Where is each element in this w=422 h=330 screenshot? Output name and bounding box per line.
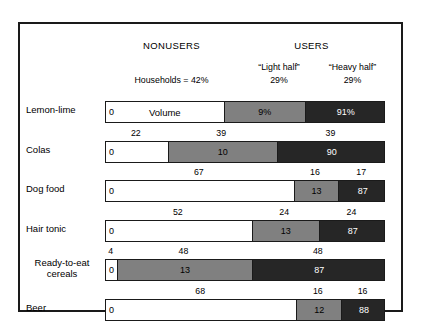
bar-segment-light: 10 <box>168 142 277 162</box>
households-percent-row: 223939 <box>105 128 385 141</box>
bar-segment-heavy: 88 <box>341 300 385 320</box>
bar-segment-nonusers: 0 <box>106 221 252 241</box>
volume-percent-value: 13 <box>180 265 190 275</box>
volume-percent-value: 0 <box>106 265 114 275</box>
stacked-bar: 01090 <box>105 141 385 163</box>
households-percent-row: 44848 <box>105 246 385 259</box>
chart-row: Lemon-lime0Volume9%91% <box>20 88 401 128</box>
households-percent-row: 671617 <box>105 167 385 180</box>
bar-segment-nonusers: 0 <box>106 260 117 280</box>
households-percent-value: 39 <box>276 128 385 138</box>
volume-percent-value: 10 <box>218 147 228 157</box>
bar-segment-heavy: 87 <box>252 260 385 280</box>
households-percent-value: 22 <box>105 128 167 138</box>
volume-percent-value: 91% <box>337 107 355 117</box>
bar-segment-light: 13 <box>294 181 339 201</box>
households-percent-value: 24 <box>318 207 385 217</box>
households-percent-row: 681616 <box>105 286 385 299</box>
group-header-nonusers: NONUSERS <box>105 40 238 51</box>
volume-percent-value: 13 <box>281 226 291 236</box>
households-label: Households = 42% <box>105 75 238 85</box>
volume-percent-value: 87 <box>358 186 368 196</box>
chart-row: Beer68161601288 <box>20 286 401 326</box>
bar-segment-nonusers: 0Volume <box>106 102 224 122</box>
households-percent-value: 16 <box>295 286 340 296</box>
households-percent-value: 48 <box>251 246 385 256</box>
volume-percent-value: 0 <box>106 226 114 236</box>
chart-row: Dog food67161701387 <box>20 167 401 207</box>
bar-segment-nonusers: 0 <box>106 300 296 320</box>
bar-segment-heavy: 87 <box>319 221 385 241</box>
volume-percent-value: 87 <box>348 226 358 236</box>
volume-percent-value: 13 <box>311 186 321 196</box>
households-percent-value: 52 <box>105 207 251 217</box>
row-label-lemon-lime: Lemon-lime <box>26 104 102 115</box>
bar-segment-nonusers: 0 <box>106 142 168 162</box>
bar-segment-heavy: 91% <box>305 102 385 122</box>
stacked-bar: 01387 <box>105 180 385 202</box>
row-label-colas: Colas <box>26 144 102 155</box>
row-label-ready-to-eat-cereals: Ready-to-eatcereals <box>22 257 102 279</box>
households-percent-value: 68 <box>105 286 295 296</box>
bar-segment-light: 13 <box>117 260 251 280</box>
stacked-bar: 01288 <box>105 299 385 321</box>
volume-percent-value: 90 <box>327 147 337 157</box>
households-percent-value: 39 <box>167 128 276 138</box>
group-header-users: USERS <box>238 40 385 51</box>
volume-percent-value: 0 <box>106 305 114 315</box>
households-percent-value: 4 <box>105 246 116 256</box>
chart-frame: NONUSERS USERS “Light half” “Heavy half”… <box>18 22 403 312</box>
row-label-beer: Beer <box>26 302 102 313</box>
chart-row: Colas22393901090 <box>20 128 401 168</box>
households-percent-row: 522424 <box>105 207 385 220</box>
stacked-bar: 01387 <box>105 259 385 281</box>
bar-segment-light: 9% <box>224 102 305 122</box>
households-percent-value: 67 <box>105 167 293 177</box>
volume-caption: Volume <box>106 107 224 118</box>
row-label-hair-tonic: Hair tonic <box>26 223 102 234</box>
households-percent-value: 16 <box>340 286 385 296</box>
households-percent-value: 48 <box>116 246 250 256</box>
sub-header-heavy-half: “Heavy half” <box>320 62 385 72</box>
households-heavy-percent: 29% <box>320 75 385 85</box>
volume-percent-value: 0 <box>106 186 114 196</box>
sub-header-light-half: “Light half” <box>238 62 320 72</box>
chart-row: Hair tonic52242401387 <box>20 207 401 247</box>
volume-percent-value: 0 <box>106 147 114 157</box>
households-percent-value: 17 <box>337 167 385 177</box>
chart-row: Ready-to-eatcereals4484801387 <box>20 246 401 286</box>
bar-segment-light: 12 <box>296 300 341 320</box>
volume-percent-value: 87 <box>314 265 324 275</box>
volume-percent-value: 12 <box>314 305 324 315</box>
bar-segment-light: 13 <box>252 221 319 241</box>
volume-percent-value: 88 <box>359 305 369 315</box>
bar-segment-nonusers: 0 <box>106 181 294 201</box>
row-label-dog-food: Dog food <box>26 183 102 194</box>
volume-percent-value: 9% <box>258 107 271 117</box>
households-percent-value: 24 <box>251 207 318 217</box>
households-light-percent: 29% <box>238 75 320 85</box>
households-percent-value: 16 <box>293 167 338 177</box>
stacked-bar: 0Volume9%91% <box>105 101 385 123</box>
bar-segment-heavy: 90 <box>277 142 385 162</box>
bar-segment-heavy: 87 <box>338 181 385 201</box>
stacked-bar: 01387 <box>105 220 385 242</box>
